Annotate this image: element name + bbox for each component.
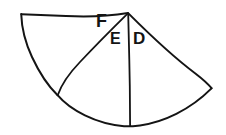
right-edge-line (128, 13, 211, 88)
vertex-label-e: E (110, 31, 121, 47)
vertical-radius-line (128, 14, 130, 126)
vertex-label-f: F (96, 12, 107, 30)
left-boundary-curve (21, 14, 57, 95)
sector-drawing (0, 0, 226, 135)
vertex-label-d: D (133, 30, 145, 47)
bottom-arc (58, 88, 212, 126)
diagonal-radius-line (58, 14, 128, 95)
upper-left-edge-line (22, 13, 129, 16)
geometry-figure: F E D (0, 0, 226, 135)
